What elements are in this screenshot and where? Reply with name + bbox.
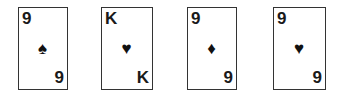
card-rank-top: 9 [191,10,200,27]
heart-icon: ♥ [121,39,131,56]
card-rank-bottom: 9 [313,69,322,86]
card-rank-bottom: 9 [224,69,233,86]
card-rank-top: K [105,10,117,27]
playing-card-9-hearts[interactable]: 9 ♥ 9 [273,7,326,90]
heart-icon: ♥ [294,39,304,56]
spade-icon: ♠ [38,39,47,56]
card-rank-bottom: 9 [55,69,64,86]
card-rank-bottom: K [137,69,149,86]
card-rank-top: 9 [277,10,286,27]
card-rank-top: 9 [22,10,31,27]
playing-card-9-spades[interactable]: 9 ♠ 9 [18,7,68,90]
diamond-icon: ♦ [207,39,216,56]
playing-card-king-hearts[interactable]: K ♥ K [101,7,153,90]
playing-card-9-diamonds[interactable]: 9 ♦ 9 [187,7,237,90]
